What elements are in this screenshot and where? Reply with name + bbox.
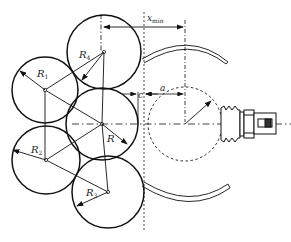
- label-r4: R4: [78, 49, 91, 61]
- radius-arrows: [13, 52, 127, 206]
- xmin-label: xmin: [147, 13, 164, 24]
- a-label: a: [160, 83, 165, 93]
- lower-shield: [142, 182, 230, 202]
- tool-radius-arrow: [185, 101, 211, 124]
- tool-clearance-diagram: xmin c a R4 R1 R R2 R3: [0, 0, 291, 242]
- cutting-tool: [221, 106, 276, 142]
- label-r1: R1: [36, 68, 48, 80]
- label-r: R: [106, 133, 115, 144]
- c-label: c: [138, 90, 143, 100]
- label-r3: R3: [85, 187, 98, 199]
- label-r2: R2: [30, 144, 43, 156]
